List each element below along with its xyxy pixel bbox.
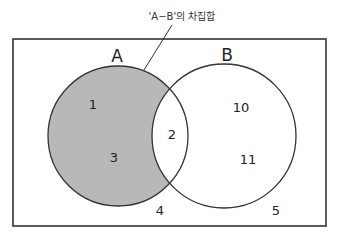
venn-diagram: 'A−B'의 차집합 A B 1 3 2 10 11 4 5: [0, 0, 341, 237]
element-a-only: 3: [110, 150, 118, 165]
element-b-only: 11: [240, 152, 257, 167]
set-b-label: B: [221, 45, 233, 65]
caption-leader-line: [144, 25, 172, 70]
element-a-only: 1: [89, 97, 97, 112]
element-b-only: 10: [233, 100, 250, 115]
element-intersection: 2: [168, 127, 176, 142]
element-outside: 5: [272, 203, 280, 218]
caption-label: 'A−B'의 차집합: [149, 11, 216, 22]
set-a-label: A: [111, 46, 123, 66]
element-outside: 4: [156, 203, 164, 218]
